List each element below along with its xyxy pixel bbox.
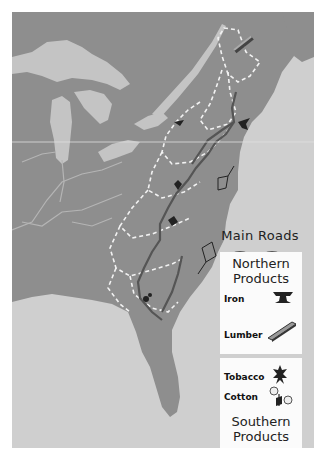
colonial-map: Main Roads Northern Products Iron Lumber… <box>12 12 314 448</box>
legend-item-tobacco: Tobacco <box>224 372 265 382</box>
legend-item-cotton: Cotton <box>224 392 258 402</box>
legend-northern-products: Northern Products Iron Lumber <box>220 252 302 354</box>
lumber-plank-icon <box>266 320 298 342</box>
cotton-plant-icon <box>268 386 294 408</box>
legend-southern-title-2: Products <box>220 429 302 444</box>
tobacco-leaf-icon <box>272 364 288 386</box>
anvil-icon <box>272 290 294 304</box>
legend-northern-title-2: Products <box>220 271 302 286</box>
legend-main-roads-label: Main Roads <box>220 228 300 243</box>
legend-item-iron: Iron <box>224 294 244 304</box>
legend-item-lumber: Lumber <box>224 330 263 340</box>
legend-northern-title-1: Northern <box>220 256 302 271</box>
legend-southern-products: Tobacco Cotton Southern Products <box>220 358 302 448</box>
legend-southern-title-1: Southern <box>220 414 302 429</box>
